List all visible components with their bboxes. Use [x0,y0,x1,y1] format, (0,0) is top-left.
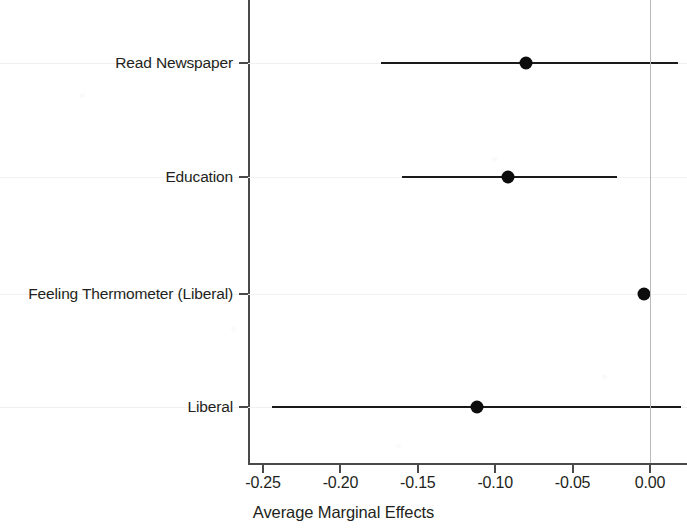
x-tick-label-1: -0.20 [323,474,358,492]
x-tick-1 [339,463,341,473]
x-tick-0 [262,463,264,473]
estimate-point [501,171,514,184]
y-tick-0 [239,62,248,64]
y-tick-2 [239,293,248,295]
x-tick-5 [649,463,651,473]
x-tick-label-5: 0.00 [635,474,665,492]
y-axis-category-label: Read Newspaper [0,54,233,72]
zero-reference-line [650,0,651,464]
x-tick-2 [417,463,419,473]
x-tick-label-0: -0.25 [245,474,280,492]
estimate-point [470,401,483,414]
estimate-point [520,57,533,70]
y-axis-category-label: Liberal [0,398,233,416]
y-axis-category-label: Feeling Thermometer (Liberal) [0,285,233,303]
y-tick-3 [239,406,248,408]
x-axis-title: Average Marginal Effects [0,503,687,522]
x-tick-3 [494,463,496,473]
x-tick-4 [572,463,574,473]
x-tick-label-2: -0.15 [400,474,435,492]
x-tick-label-4: -0.05 [555,474,590,492]
coefficient-plot-figure: -0.25-0.20-0.15-0.10-0.050.00 Read Newsp… [0,0,687,531]
x-tick-label-3: -0.10 [477,474,512,492]
y-axis-category-label: Education [0,168,233,186]
y-tick-1 [239,176,248,178]
estimate-point [637,288,650,301]
plot-area [248,0,687,464]
